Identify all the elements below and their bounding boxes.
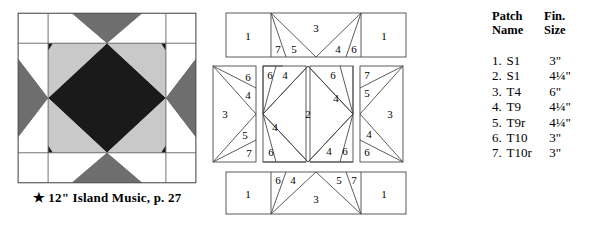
top-strip-outline	[226, 13, 406, 57]
label-mc-4d: 4	[326, 145, 332, 157]
label-mc-6c: 6	[268, 146, 274, 158]
table-row: 4. T9 4¼"	[492, 99, 592, 114]
header-patch-name-line1: Patch	[492, 10, 544, 24]
label-mc-6a: 6	[267, 69, 273, 81]
label-bot-1-right: 1	[381, 188, 387, 200]
patch-name: T10r	[507, 145, 550, 160]
patch-size: 6"	[549, 84, 592, 99]
label-ml-6: 6	[245, 71, 251, 83]
table-row: 7. T10r 3"	[492, 145, 592, 160]
label-mc-2: 2	[305, 108, 311, 120]
patch-size: 4¼"	[549, 115, 592, 130]
label-mr-5: 5	[364, 87, 370, 99]
patch-name: S1	[507, 68, 550, 83]
patch-size: 3"	[549, 130, 592, 145]
header-patch-name-line2: Name	[492, 24, 544, 38]
label-top-6: 6	[351, 43, 357, 55]
patch-size: 4¼"	[549, 68, 592, 83]
table-row: 6. T10 3"	[492, 130, 592, 145]
label-top-4: 4	[335, 43, 341, 55]
label-mc-6b: 6	[330, 69, 336, 81]
table-row: 5. T9r 4¼"	[492, 115, 592, 130]
patch-name: T9r	[507, 115, 550, 130]
label-mc-4c: 4	[272, 121, 278, 133]
label-mr-3: 3	[387, 108, 393, 120]
label-mr-6: 6	[364, 146, 370, 158]
label-mr-4: 4	[366, 128, 372, 140]
patch-number: 2.	[492, 68, 507, 83]
patch-size: 4¼"	[549, 99, 592, 114]
label-mc-4b: 4	[333, 92, 339, 104]
patch-number: 1.	[492, 53, 507, 68]
label-top-1-left: 1	[245, 30, 251, 42]
label-mr-7: 7	[364, 69, 370, 81]
label-ml-4: 4	[245, 89, 251, 101]
table-row: 3. T4 6"	[492, 84, 592, 99]
patch-name: S1	[507, 53, 550, 68]
patch-name: T10	[507, 130, 550, 145]
label-ml-5: 5	[242, 129, 248, 141]
label-mc-6d: 6	[342, 145, 348, 157]
table-row: 1. S1 3"	[492, 53, 592, 68]
patch-number: 3.	[492, 84, 507, 99]
patch-number: 7.	[492, 145, 507, 160]
patch-number: 6.	[492, 130, 507, 145]
table-row: 2. S1 4¼"	[492, 68, 592, 83]
label-top-1-right: 1	[381, 30, 387, 42]
label-bot-1-left: 1	[245, 188, 251, 200]
header-fin-size-line2: Size	[544, 24, 588, 38]
header-fin-size-line1: Fin.	[544, 10, 588, 24]
piecing-diagram-panel: 1 7 5 3 4 6 1 6 4 3 5 7 6 4 6 4 2 4	[208, 0, 458, 227]
label-top-3: 3	[313, 22, 319, 34]
label-ml-7: 7	[246, 147, 252, 159]
patch-name: T9	[507, 99, 550, 114]
patch-name: T4	[507, 84, 550, 99]
block-caption: ★ 12" Island Music, p. 27	[14, 190, 200, 206]
patch-size: 3"	[549, 53, 592, 68]
label-ml-3: 3	[222, 108, 228, 120]
label-top-5: 5	[291, 43, 297, 55]
piecing-diagrams: 1 7 5 3 4 6 1 6 4 3 5 7 6 4 6 4 2 4	[208, 0, 458, 227]
top-strip-diagram	[226, 13, 406, 57]
patch-number: 5.	[492, 115, 507, 130]
patch-table-header-line1: Patch Fin.	[492, 10, 592, 24]
island-music-block-illustration	[14, 8, 200, 188]
label-bot-7: 7	[351, 174, 357, 186]
patch-table-header-line2: Name Size	[492, 24, 592, 38]
label-bot-6: 6	[275, 174, 281, 186]
label-mc-4a: 4	[282, 69, 288, 81]
finished-block-panel: ★ 12" Island Music, p. 27	[14, 8, 200, 220]
patch-table: Patch Fin. Name Size 1. S1 3" 2. S1 4¼" …	[492, 10, 592, 161]
label-bot-3: 3	[313, 193, 319, 205]
label-bot-5: 5	[336, 174, 342, 186]
label-top-7: 7	[275, 43, 281, 55]
label-bot-4: 4	[290, 174, 296, 186]
patch-size: 3"	[549, 145, 592, 160]
quilt-pattern-page: ★ 12" Island Music, p. 27	[0, 0, 595, 227]
patch-table-rows: 1. S1 3" 2. S1 4¼" 3. T4 6" 4. T9 4¼" 5.	[492, 53, 592, 161]
patch-number: 4.	[492, 99, 507, 114]
